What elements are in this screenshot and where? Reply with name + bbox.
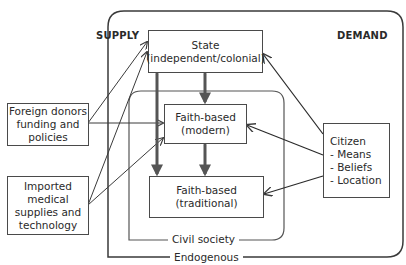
citizen-location: - Location: [330, 174, 382, 187]
state-title: State: [192, 39, 220, 52]
civil-society-label: Civil society: [168, 233, 239, 246]
imported-supplies-node: Imported medical supplies and technology: [7, 176, 89, 235]
faith-traditional-title: Faith-based: [176, 184, 237, 197]
demand-heading: DEMAND: [337, 30, 388, 41]
faith-traditional-subtitle: (traditional): [175, 197, 237, 210]
citizen-means: - Means: [330, 148, 371, 161]
state-subtitle: (independent/colonial): [146, 52, 265, 65]
endogenous-label: Endogenous: [170, 251, 243, 264]
citizen-beliefs: - Beliefs: [330, 161, 372, 174]
foreign-donors-line2: funding and: [17, 118, 80, 131]
imported-line2: medical: [27, 193, 68, 206]
imported-line1: Imported: [24, 180, 72, 193]
supply-heading: SUPPLY: [96, 30, 139, 41]
faith-modern-title: Faith-based: [175, 111, 236, 124]
faith-modern-subtitle: (modern): [181, 124, 230, 137]
arrow-donors-to-state: [88, 42, 147, 123]
citizen-title: Citizen: [330, 135, 366, 148]
arrow-imported-to-state: [88, 52, 147, 205]
faith-traditional-node: Faith-based (traditional): [149, 176, 264, 218]
state-node: State (independent/colonial): [148, 30, 263, 73]
imported-line3: supplies and: [15, 206, 81, 219]
foreign-donors-line1: Foreign donors: [9, 105, 87, 118]
foreign-donors-node: Foreign donors funding and policies: [7, 103, 89, 146]
arrow-citizen-to-modern: [247, 125, 323, 155]
arrow-citizen-to-traditional: [264, 176, 323, 194]
imported-line4: technology: [19, 219, 77, 232]
arrow-citizen-to-state: [263, 54, 323, 134]
faith-modern-node: Faith-based (modern): [164, 104, 247, 144]
foreign-donors-line3: policies: [28, 131, 68, 144]
citizen-node: Citizen - Means - Beliefs - Location: [323, 123, 390, 198]
